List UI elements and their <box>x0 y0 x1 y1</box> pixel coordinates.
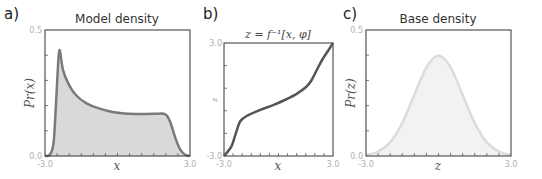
panel-c-letter: c) <box>343 5 357 23</box>
panel-b-ytick-top: 3.0 <box>209 39 222 48</box>
panel-b-letter: b) <box>203 5 218 23</box>
panel-c-xtick-right: 3.0 <box>505 160 518 169</box>
panel-a-ylabel: Pr(x) <box>23 78 37 109</box>
panel-b: b) z = f⁻¹[x, φ] 3.0 -3.0 -3.0 3.0 x z <box>203 5 339 173</box>
panel-c-xtick-left: -3.0 <box>358 160 374 169</box>
panel-c-ylabel: Pr(z) <box>344 78 358 109</box>
panel-b-xtick-right: 3.0 <box>327 160 340 169</box>
model-density-area <box>45 50 190 156</box>
panel-a-xtick-right: 3.0 <box>184 160 197 169</box>
panel-b-axes-frame <box>224 43 333 156</box>
panel-c-ytick-top: 0.5 <box>350 26 363 35</box>
panel-c-xlabel: z <box>434 159 442 173</box>
panel-c-title: Base density <box>399 12 476 26</box>
panel-a-title: Model density <box>75 12 159 26</box>
panel-b-title: z = f⁻¹[x, φ] <box>244 28 311 41</box>
panel-a-xtick-left: -3.0 <box>37 160 53 169</box>
panel-a-xlabel: x <box>114 159 121 173</box>
panel-b-xlabel: x <box>275 159 282 173</box>
figure: a) Model density 0.5 0.0 -3.0 3.0 x Pr(x… <box>0 0 542 179</box>
panel-a-letter: a) <box>4 5 19 23</box>
panel-b-xtick-left: -3.0 <box>216 160 232 169</box>
panel-c: c) Base density 0.5 0.0 -3.0 3.0 z Pr(z) <box>343 5 517 173</box>
panel-a-ytick-top: 0.5 <box>29 26 42 35</box>
panel-b-ylabel: z <box>210 97 219 103</box>
panel-a: a) Model density 0.5 0.0 -3.0 3.0 x Pr(x… <box>4 5 196 173</box>
inverse-mapping-curve <box>224 43 333 156</box>
panel-b-ticks <box>224 66 324 156</box>
base-density-area <box>366 56 511 157</box>
